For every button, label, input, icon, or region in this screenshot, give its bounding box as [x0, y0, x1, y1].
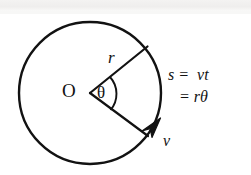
equation-line-2: = rθ: [168, 86, 209, 108]
equation-line-1: s = vt: [168, 64, 209, 86]
angle-arc: [110, 77, 116, 110]
equation-block: s = vt = rθ: [168, 64, 209, 107]
circle-diagram-drawing: [0, 0, 251, 175]
radius-label: r: [108, 49, 115, 66]
angle-theta-label: θ: [97, 84, 105, 101]
physics-diagram-figure: O r θ v s = vt = rθ: [0, 0, 251, 175]
velocity-label: v: [163, 133, 170, 149]
center-point-label: O: [62, 81, 76, 100]
